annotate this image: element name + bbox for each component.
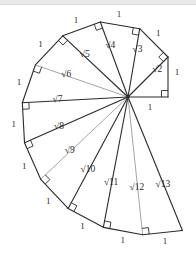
unit-leg-label-6: 1 (17, 77, 22, 87)
right-angle-mark-1 (162, 91, 169, 98)
hypotenuse-edge-4 (63, 36, 128, 97)
right-angle-mark-7 (23, 102, 29, 109)
unit-leg-edge-6 (22, 65, 35, 103)
unit-leg-label-5: 1 (38, 39, 43, 49)
hypotenuse-edge-6 (22, 97, 128, 103)
unit-leg-label-10: 1 (80, 221, 85, 231)
unit-leg-label-3: 1 (117, 9, 122, 19)
right-angle-mark-5 (58, 40, 67, 45)
hypotenuse-label-4: √5 (80, 49, 90, 59)
spiral-center-point (126, 95, 130, 99)
unit-leg-edge-4 (63, 22, 101, 36)
hypotenuse-label-6: √7 (53, 94, 63, 104)
unit-leg-label-11: 1 (120, 235, 125, 245)
hypotenuse-edge-7 (25, 97, 128, 143)
center-point-group (126, 95, 130, 99)
unit-leg-label-2: 1 (156, 28, 161, 38)
spiral-of-theodorus-figure: √2√3√4√5√6√7√8√9√10√11√12√13 11111111111… (0, 0, 196, 266)
unit-leg-edge-9 (41, 179, 68, 208)
unit-leg-label-9: 1 (46, 196, 51, 206)
unit-leg-label-7: 1 (11, 119, 16, 129)
spiral-diagram-svg: √2√3√4√5√6√7√8√9√10√11√12√13 11111111111… (0, 0, 196, 266)
hypotenuse-edge-3 (100, 22, 128, 97)
hypotenuse-edge-9 (68, 97, 128, 208)
hypotenuse-label-9: √10 (81, 164, 96, 174)
unit-leg-label-12: 1 (163, 236, 168, 246)
hypotenuse-edge-12 (128, 97, 182, 231)
unit-leg-label-8: 1 (22, 161, 27, 171)
unit-leg-edge-2 (140, 29, 168, 57)
hypotenuse-label-10: √11 (104, 177, 119, 187)
hypotenuse-label-1: √2 (152, 64, 162, 74)
hypotenuse-edge-5 (35, 65, 128, 97)
unit-leg-edge-11 (103, 227, 142, 234)
hypotenuse-label-5: √6 (61, 69, 71, 79)
unit-leg-edge-10 (68, 208, 103, 227)
hypotenuse-label-8: √9 (65, 145, 75, 155)
unit-leg-label-4: 1 (74, 15, 79, 25)
unit-leg-edge-3 (100, 22, 139, 29)
unit-leg-edge-8 (25, 143, 41, 180)
hypotenuse-edge-11 (128, 97, 143, 235)
hypotenuse-label-12: √13 (156, 179, 171, 189)
hypotenuse-label-2: √3 (133, 44, 143, 54)
right-angle-mark-2 (159, 52, 164, 61)
right-angle-mark-9 (45, 175, 50, 184)
hypotenuse-label-11: √12 (130, 182, 145, 192)
hypotenuse-label-7: √8 (54, 121, 64, 131)
right-angle-mark-12 (142, 228, 149, 234)
hypotenuse-labels-group: √2√3√4√5√6√7√8√9√10√11√12√13 (53, 40, 171, 192)
base-unit-leg-label: 1 (148, 102, 153, 112)
hypotenuse-label-3: √4 (105, 40, 115, 50)
unit-leg-label-1: 1 (175, 67, 180, 77)
